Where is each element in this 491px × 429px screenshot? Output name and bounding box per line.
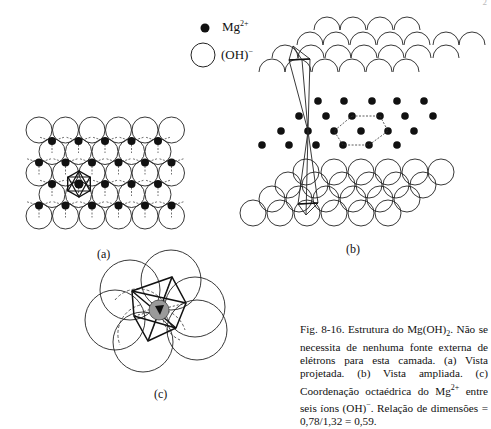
figure-caption: Fig. 8-16. Estrutura do Mg(OH)2. Não se … — [300, 323, 488, 429]
figure-number: Fig. 8-16. — [300, 323, 345, 335]
panel-c-label: (c) — [154, 387, 167, 402]
